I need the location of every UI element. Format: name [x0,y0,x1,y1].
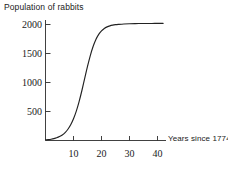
y-axis: 2000 1500 1000 500 [22,19,51,141]
y-tick-label-1500: 1500 [22,48,42,59]
x-tick-label-20: 20 [97,148,107,159]
y-tick-label-1000: 1000 [22,77,42,88]
x-tick-label-40: 40 [153,148,163,159]
x-tick-label-10: 10 [69,148,79,159]
y-tick-label-2000: 2000 [22,19,42,30]
x-axis-label: Years since 1774 [168,134,228,143]
population-curve [46,23,164,140]
x-axis: 10 20 30 40 [46,136,167,159]
y-tick-label-500: 500 [27,106,42,117]
x-tick-label-30: 30 [125,148,135,159]
chart-screenshot: Population of rabbits 2000 1500 1000 500… [0,0,228,169]
population-growth-chart: 2000 1500 1000 500 10 20 30 40 [0,0,228,169]
